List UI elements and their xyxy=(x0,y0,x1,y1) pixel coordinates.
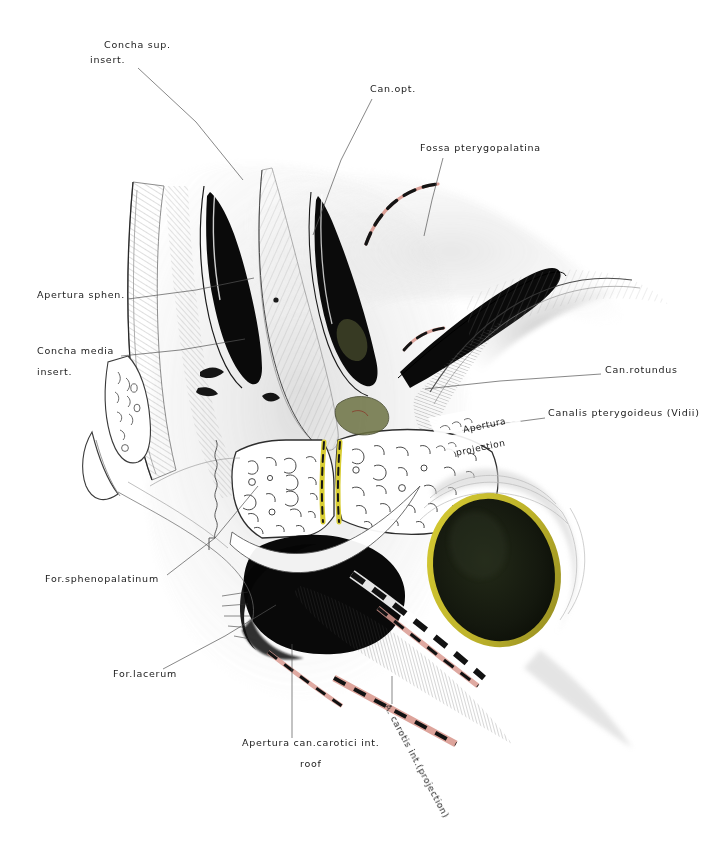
anatomical-drawing xyxy=(0,0,708,849)
anatomical-plate: Concha sup. insert. Can.opt. Fossa ptery… xyxy=(0,0,708,849)
label-concha-sup-insert: Concha sup. insert. xyxy=(104,38,171,67)
label-for-sphenopalatinum: For.sphenopalatinum xyxy=(45,572,159,587)
label-text: Apertura can.carotici int. xyxy=(242,737,380,748)
label-text-line2: insert. xyxy=(90,53,171,68)
label-can-opt: Can.opt. xyxy=(370,82,416,97)
label-text-line2: insert. xyxy=(37,365,114,380)
label-concha-media-insert: Concha media insert. xyxy=(37,344,114,379)
label-text: Fossa pterygopalatina xyxy=(420,142,541,153)
label-canalis-pterygoideus-vidii: Canalis pterygoideus (Vidii) xyxy=(548,406,700,421)
label-text: For.lacerum xyxy=(113,668,177,679)
label-text: Apertura sphen. xyxy=(37,289,125,300)
label-text: Can.opt. xyxy=(370,83,416,94)
label-text: Can.rotundus xyxy=(605,364,678,375)
label-apertura-sphen: Apertura sphen. xyxy=(37,288,125,303)
label-text: Concha media xyxy=(37,345,114,356)
label-text-line2: roof xyxy=(242,757,380,772)
label-apertura-can-carotici-roof: Apertura can.carotici int. roof xyxy=(242,736,380,771)
label-text: Canalis pterygoideus (Vidii) xyxy=(548,407,700,418)
label-text: Concha sup. xyxy=(104,39,171,50)
label-for-lacerum: For.lacerum xyxy=(113,667,177,682)
label-fossa-pterygopalatina: Fossa pterygopalatina xyxy=(420,141,541,156)
label-can-rotundus: Can.rotundus xyxy=(605,363,678,378)
label-text: For.sphenopalatinum xyxy=(45,573,159,584)
